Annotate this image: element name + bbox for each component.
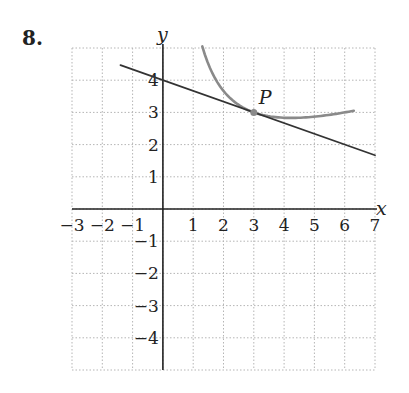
- x-tick-label: 3: [248, 215, 259, 235]
- x-tick-label: 5: [309, 215, 320, 235]
- y-tick-label: −1: [134, 231, 159, 251]
- y-tick-label: 4: [148, 70, 159, 90]
- graph: xy−3−2−112345674321−1−2−3−4P: [0, 0, 409, 393]
- y-tick-label: −2: [134, 263, 159, 283]
- x-tick-label: 4: [279, 215, 290, 235]
- x-tick-label: −2: [90, 215, 115, 235]
- y-tick-label: 3: [148, 102, 159, 122]
- x-tick-label: 1: [188, 215, 199, 235]
- x-tick-label: 2: [218, 215, 229, 235]
- x-tick-label: 6: [339, 215, 350, 235]
- y-tick-label: −4: [134, 328, 159, 348]
- point-p-label: P: [258, 86, 273, 108]
- curve-series: [202, 46, 354, 117]
- y-tick-label: 2: [148, 135, 159, 155]
- y-axis-label: y: [156, 23, 168, 45]
- point-p-marker: [250, 109, 257, 116]
- x-tick-label: 7: [370, 215, 381, 235]
- x-tick-label: −3: [59, 215, 84, 235]
- y-tick-label: −3: [134, 296, 159, 316]
- y-tick-label: 1: [148, 167, 159, 187]
